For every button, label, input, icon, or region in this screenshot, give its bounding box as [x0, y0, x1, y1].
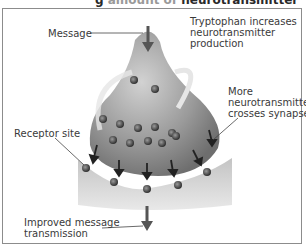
- label-improved-line-2: transmission: [24, 228, 120, 239]
- label-more-neurotransmitter: More neurotransmitter crosses synapse: [228, 86, 306, 119]
- label-tryptophan-line-1: Tryptophan increases: [190, 16, 297, 27]
- label-improved-line-1: Improved message: [24, 217, 120, 228]
- label-receptor-site: Receptor site: [14, 128, 80, 139]
- label-tryptophan-line-3: production: [190, 38, 297, 49]
- label-more-line-3: crosses synapse: [228, 108, 306, 119]
- presynaptic-neuron: [90, 31, 220, 176]
- label-more-line-2: neurotransmitter: [228, 97, 306, 108]
- label-more-line-1: More: [228, 86, 306, 97]
- label-improved-transmission: Improved message transmission: [24, 217, 120, 239]
- label-tryptophan-line-2: neurotransmitter: [190, 27, 297, 38]
- label-tryptophan: Tryptophan increases neurotransmitter pr…: [190, 16, 297, 49]
- label-message: Message: [48, 28, 92, 39]
